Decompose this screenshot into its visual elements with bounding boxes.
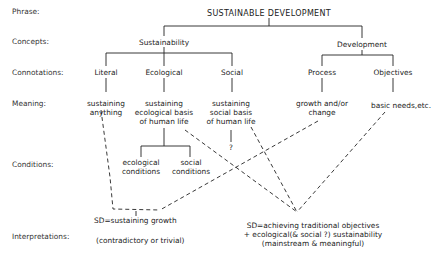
meaning-process: growth and/or change <box>296 99 348 117</box>
row-label-concepts: Concepts: <box>12 37 49 46</box>
connotation-objectives: Objectives <box>374 68 413 77</box>
meaning-social-unknown: ? <box>229 143 233 152</box>
connotation-literal: Literal <box>94 68 117 77</box>
condition-social: social conditions <box>172 158 210 176</box>
phrase-node: SUSTAINABLE DEVELOPMENT <box>207 9 331 18</box>
row-label-connotations: Connotations: <box>12 68 64 77</box>
interpretation-left-title: SD=sustaining growth <box>94 216 177 225</box>
meaning-ecological: sustaining ecological basis of human lif… <box>135 99 193 126</box>
connotation-process: Process <box>308 68 336 77</box>
meaning-social: sustaining social basis of human life <box>207 99 256 126</box>
concept-sustainability: Sustainability <box>139 38 189 47</box>
connotation-social: Social <box>221 68 243 77</box>
meaning-objectives: basic needs,etc. <box>371 101 431 110</box>
row-label-meaning: Meaning: <box>12 99 46 108</box>
row-label-interpretations: Interpretations: <box>12 232 69 241</box>
row-label-conditions: Conditions: <box>12 160 54 169</box>
row-label-phrase: Phrase: <box>12 7 40 16</box>
interpretation-left-note: (contradictory or trivial) <box>96 236 184 245</box>
condition-ecological: ecological conditions <box>122 158 160 176</box>
interpretation-right: SD=achieving traditional objectives + ec… <box>244 221 382 248</box>
meaning-literal: sustaining anything <box>87 99 125 117</box>
concept-development: Development <box>337 40 387 49</box>
connotation-ecological: Ecological <box>145 68 182 77</box>
